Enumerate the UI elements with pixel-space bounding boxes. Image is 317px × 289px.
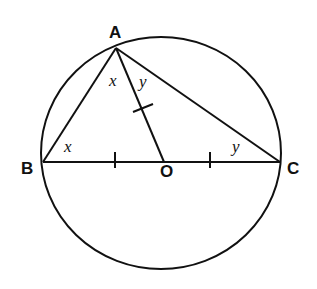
- angle-label-oac: y: [137, 72, 147, 91]
- point-label-b: B: [21, 159, 33, 178]
- point-label-a: A: [109, 23, 121, 42]
- angle-label-oca: y: [230, 137, 240, 156]
- angle-label-abo: x: [63, 137, 72, 156]
- segment-ab: [43, 48, 116, 162]
- geometry-diagram: A B C O x x y y: [0, 0, 317, 289]
- point-label-o: O: [160, 162, 173, 181]
- angle-label-bao: x: [108, 71, 117, 90]
- point-label-c: C: [287, 159, 299, 178]
